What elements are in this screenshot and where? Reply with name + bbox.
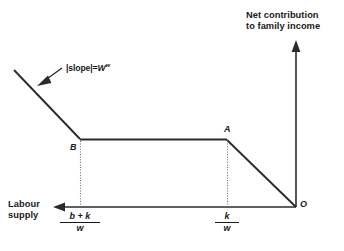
x-axis-label-line1: Labour [8,199,40,209]
lower-diagonal-segment [227,140,296,207]
slope-annotation: |slope|=Ww [66,63,110,73]
point-label-o: O [300,199,307,210]
slope-annotation-prefix: |slope|= [66,63,97,73]
fraction-numerator: k [215,212,239,222]
y-axis-label-line1: Net contribution [246,10,319,20]
y-axis-label-line2: to family income [246,21,320,31]
x-tick-label-k-over-w: k w [215,212,239,233]
x-axis-arrowhead [53,203,65,212]
slope-annotation-superscript: w [106,62,111,68]
y-axis-arrowhead [292,40,301,52]
diagram-svg [0,0,344,251]
fraction-denominator: w [60,223,100,233]
figure-canvas: Net contribution to family income Labour… [0,0,344,251]
y-axis-label: Net contribution to family income [246,10,320,32]
fraction-numerator: b + k [60,212,100,222]
x-tick-label-b-plus-k-over-w: b + k w [60,212,100,233]
x-axis-label: Labour supply [8,199,40,221]
fraction-denominator: w [215,223,239,233]
point-label-b: B [70,142,77,153]
x-axis-label-line2: supply [8,210,38,220]
point-label-a: A [224,124,231,135]
slope-annotation-variable: W [97,63,105,73]
